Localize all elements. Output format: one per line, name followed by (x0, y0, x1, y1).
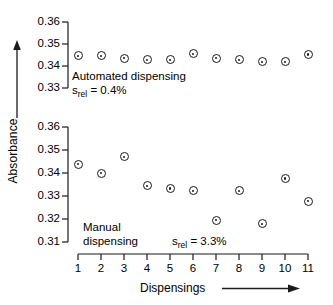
srel-value: = 3.3% (187, 235, 226, 247)
bottom-panel-plot-area (26, 118, 326, 250)
x-axis-ticks (78, 254, 308, 260)
annotation-manual-srel: srel = 3.3% (172, 234, 227, 252)
data-point (74, 160, 83, 169)
data-point (166, 184, 175, 193)
data-point (143, 181, 152, 190)
data-point (281, 57, 290, 66)
data-point (143, 55, 152, 64)
annotation-manual-name: Manual dispensing (83, 220, 138, 248)
data-point (212, 54, 221, 63)
data-point (235, 55, 244, 64)
data-point (304, 197, 313, 206)
srel-subscript: rel (178, 240, 187, 250)
data-point (166, 55, 175, 64)
data-point (74, 51, 83, 60)
x-axis-tick-label: 11 (295, 262, 321, 274)
data-point (97, 169, 106, 178)
x-axis-tick-labels: 1234567891011 (0, 262, 333, 278)
annotation-automated-name: Automated dispensing (72, 69, 186, 83)
x-axis-arrow-icon (222, 283, 302, 294)
data-point (97, 51, 106, 60)
data-point (281, 174, 290, 183)
data-point (304, 50, 313, 59)
data-point (212, 216, 221, 225)
srel-value: = 0.4% (87, 84, 126, 96)
data-point (258, 57, 267, 66)
data-point (258, 219, 267, 228)
annotation-manual-line1: Manual (83, 220, 138, 234)
x-axis-title: Dispensings (140, 281, 205, 295)
y-axis-group: Absorbance (0, 34, 26, 239)
annotation-automated: Automated dispensing srel = 0.4% (72, 69, 186, 101)
data-point (120, 152, 129, 161)
annotation-manual-line2: dispensing (83, 234, 138, 248)
figure-canvas: Absorbance 0.36 0.35 0.34 0.33 Automated… (0, 0, 333, 305)
data-point (189, 186, 198, 195)
panel-manual-dispensing: 0.36 0.35 0.34 0.33 0.32 0.31 (26, 118, 326, 250)
data-point (235, 186, 244, 195)
srel-subscript: rel (78, 89, 87, 99)
data-point (120, 54, 129, 63)
y-axis-title: Absorbance (0, 102, 26, 200)
annotation-automated-srel: srel = 0.4% (72, 83, 186, 101)
data-point (189, 49, 198, 58)
